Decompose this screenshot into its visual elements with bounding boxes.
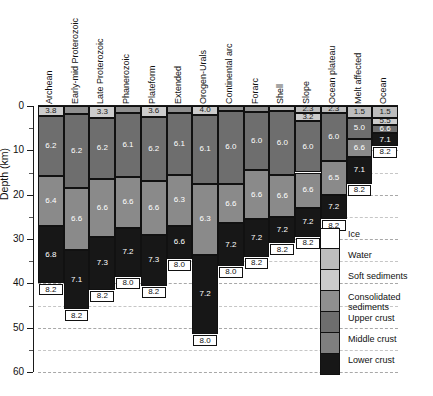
column-header-late-proterozoic: Late Proterozoic [89,2,115,104]
layer-velocity-label: 6.6 [71,215,82,223]
layer-velocity-label: 7.2 [225,241,236,249]
layer-middle: 6.6 [218,184,244,224]
y-tick-0 [27,106,33,107]
column-plateform: 3.66.26.67.3 [141,106,167,372]
column-header-forarc: Forarc [244,2,270,104]
column-header-label: Slope [302,81,311,104]
column-header-ocean: Ocean [372,2,398,104]
layer-velocity-label: 3.8 [45,107,56,115]
layer-middle: 6.3 [192,184,218,255]
layer-velocity-label: 6.6 [225,200,236,208]
layer-velocity-label: 7.3 [97,259,108,267]
layer-consolidated [115,106,141,113]
legend-label: Lower crust [348,354,395,365]
layer-velocity-label: 7.1 [71,276,82,284]
layer-lower: 7.2 [192,255,218,335]
layer-velocity-label: 6.6 [302,186,313,194]
layer-lower: 7.2 [115,228,141,277]
layer-velocity-label: 3.2 [302,113,313,121]
legend-item-middle-crust: Middle crust [320,333,397,354]
layer-velocity-label: 6.2 [71,147,82,155]
column-header-label: Shell [276,84,285,104]
layer-soft: 3.8 [38,106,64,116]
layer-upper: 6.1 [167,113,193,175]
column-late-proterozoic: 3.36.26.67.3 [89,106,115,372]
column-header-label: Melt affected [354,53,363,104]
layer-velocity-label: 7.3 [148,256,159,264]
legend-label: Water [348,249,372,260]
y-tick-label-60: 60 [0,367,24,377]
layer-middle: 6.5 [321,161,347,194]
column-extended: 6.16.36.6 [167,106,193,372]
layer-velocity-label: 2.3 [328,106,339,113]
layer-velocity-label: 5.5 [380,118,391,125]
layer-velocity-label: 6.6 [97,204,108,212]
layer-velocity-label: 6.3 [174,196,185,204]
legend-swatch [320,228,340,249]
y-axis-line [33,106,34,372]
layer-upper: 6.0 [295,121,321,172]
layer-velocity-label: 6.4 [45,197,56,205]
layer-lower: 7.1 [64,250,90,309]
layer-velocity-label: 6.8 [45,251,56,259]
legend-swatch [320,249,340,270]
y-tick-10 [27,150,33,151]
column-header-early-mid-proterozoic: Early-mid Proterozoic [64,2,90,104]
layer-water: 1.5 [372,106,398,118]
layer-upper: 6.6 [372,125,398,134]
column-header-phanerozoic: Phanerozoic [115,2,141,104]
layer-velocity-label: 6.6 [354,144,365,152]
layer-velocity-label: 7.2 [328,203,339,211]
y-tick-60 [27,372,33,373]
legend-label: Ice [348,228,360,239]
column-header-continental-arc: Continental arc [218,2,244,104]
layer-velocity-label: 2.3 [302,106,313,113]
y-tick-40 [27,283,33,284]
layer-velocity-label: 7.1 [380,136,391,144]
layer-velocity-label: 6.2 [148,145,159,153]
layer-velocity-label: 6.6 [277,192,288,200]
y-tick-30 [27,239,33,240]
layer-lower: 7.2 [295,208,321,237]
layer-upper: 6.0 [269,111,295,174]
layer-velocity-label: 1.5 [354,108,365,116]
column-header-label: Archean [45,70,54,104]
layer-velocity-label: 6.0 [225,143,236,151]
legend-label: Soft sediments [348,270,408,281]
layer-upper: 6.2 [141,117,167,182]
layer-upper: 6.2 [89,118,115,180]
layer-lower: 7.2 [269,217,295,244]
legend-item-soft-sediments: Soft sediments [320,270,408,291]
layer-lower: 7.1 [372,133,398,145]
legend-item-lower-crust: Lower crust [320,354,395,375]
column-phanerozoic: 6.16.67.2 [115,106,141,372]
column-archean: 3.86.26.46.8 [38,106,64,372]
y-tick-label-0: 0 [0,101,24,111]
layer-water: 1.5 [347,106,373,118]
y-tick-5 [29,128,33,129]
y-tick-20 [27,195,33,196]
layer-middle: 6.6 [295,173,321,208]
legend-label: Upper crust [348,312,395,323]
layer-lower: 7.2 [244,219,270,257]
layer-velocity-label: 6.6 [380,125,391,133]
layer-lower: 6.8 [38,226,64,284]
layer-middle: 6.3 [167,175,193,226]
column-header-label: Extended [174,66,183,104]
column-header-label: Phanerozoic [122,54,131,104]
column-header-label: Forarc [251,78,260,104]
column-header-label: Plateform [148,65,157,104]
layer-soft: 4.0 [192,106,218,115]
layer-soft: 3.6 [141,106,167,117]
layer-velocity-label: 7.2 [302,218,313,226]
legend-item-water: Water [320,249,372,270]
column-early-mid-proterozoic: 6.26.67.1 [64,106,90,372]
layer-velocity-label: 6.1 [200,145,211,153]
legend-swatch [320,291,340,312]
layer-middle: 6.6 [89,179,115,237]
legend-swatch [320,354,340,375]
y-tick-label-10: 10 [0,145,24,155]
layer-velocity-label: 6.1 [174,140,185,148]
layer-middle: 6.6 [115,177,141,228]
y-tick-25 [29,217,33,218]
